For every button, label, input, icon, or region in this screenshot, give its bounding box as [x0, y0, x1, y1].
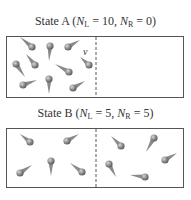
molecule-ball — [161, 156, 168, 163]
molecule-ball — [85, 61, 92, 68]
velocity-label: v — [83, 46, 88, 57]
molecule-ball — [69, 84, 76, 91]
molecule-ball — [63, 137, 70, 144]
molecule-ball — [65, 68, 72, 75]
molecule-ball — [28, 43, 35, 50]
molecule-ball — [19, 81, 26, 88]
molecule-ball — [141, 173, 148, 180]
molecule-ball — [31, 61, 38, 68]
gas-diagram: v — [0, 0, 191, 200]
molecule-ball — [12, 60, 19, 67]
molecule-ball — [105, 160, 112, 167]
molecule-ball — [47, 157, 54, 164]
molecule-ball — [16, 169, 23, 176]
molecule-ball — [26, 138, 33, 145]
molecule-ball — [64, 43, 71, 50]
molecule-ball — [45, 75, 52, 82]
molecule-ball — [117, 142, 124, 149]
molecule-ball — [150, 134, 157, 141]
molecule-ball — [78, 168, 85, 175]
molecule-ball — [46, 42, 53, 49]
